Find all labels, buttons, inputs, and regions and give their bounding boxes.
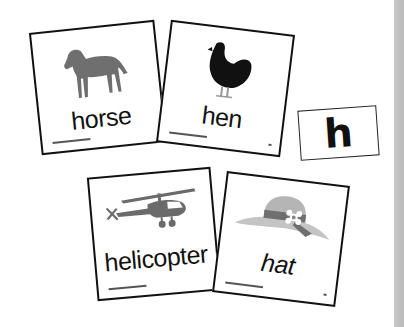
card-word: helicopter: [95, 239, 217, 278]
card-hen: hen: [156, 20, 295, 157]
hat-icon: [221, 187, 346, 247]
letter: h: [323, 112, 354, 154]
letter-card-h: h: [297, 105, 379, 160]
card-footer-text: [169, 131, 207, 138]
card-hat: hat: [212, 171, 350, 307]
card-page-number: [268, 144, 271, 146]
card-word: hat: [217, 243, 340, 286]
card-footer-text: [52, 138, 90, 144]
horse-icon: [33, 38, 160, 106]
card-footer-text: [225, 282, 263, 289]
card-page-number: [323, 294, 326, 296]
card-horse: horse: [29, 20, 167, 155]
card-helicopter: helicopter: [87, 167, 221, 301]
helicopter-icon: [90, 185, 213, 237]
card-footer-text: [109, 285, 147, 290]
gray-edge-strip: [394, 0, 404, 327]
